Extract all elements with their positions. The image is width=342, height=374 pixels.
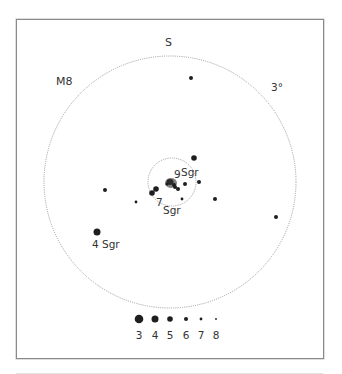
stars-layer (94, 76, 279, 236)
legend-dot (167, 316, 173, 322)
legend-label: 8 (213, 329, 220, 341)
legend-label: 6 (183, 329, 190, 341)
star (183, 182, 187, 186)
star-label: 9 (174, 168, 181, 180)
legend-dot (215, 318, 217, 320)
star (135, 201, 138, 204)
star (189, 76, 193, 80)
direction-label: S (165, 36, 172, 49)
star (181, 198, 184, 201)
legend-dot (184, 317, 188, 321)
legend-label: 3 (136, 329, 143, 341)
star (191, 155, 197, 161)
star (94, 229, 101, 236)
star (213, 197, 217, 201)
star-label: 4 Sgr (92, 238, 120, 250)
star-label: 7 (156, 196, 163, 208)
object-label: M8 (56, 75, 73, 88)
star (176, 187, 180, 191)
legend-label: 5 (167, 329, 174, 341)
legend-dot (200, 318, 203, 321)
legend-dot (135, 315, 144, 324)
star (149, 190, 155, 196)
star-chart: S M8 3° 9Sgr7Sgr4 Sgr 345678 (0, 0, 342, 374)
star-label: Sgr (163, 204, 181, 216)
legend-dot (152, 316, 159, 323)
magnitude-legend: 345678 (135, 315, 220, 341)
legend-label: 4 (152, 329, 159, 341)
star (103, 188, 107, 192)
star (153, 186, 159, 192)
star-labels-layer: 9Sgr7Sgr4 Sgr (92, 166, 199, 250)
scale-label: 3° (271, 81, 283, 93)
legend-label: 7 (198, 329, 205, 341)
star (197, 180, 201, 184)
star-label: Sgr (181, 166, 199, 178)
star (274, 215, 278, 219)
